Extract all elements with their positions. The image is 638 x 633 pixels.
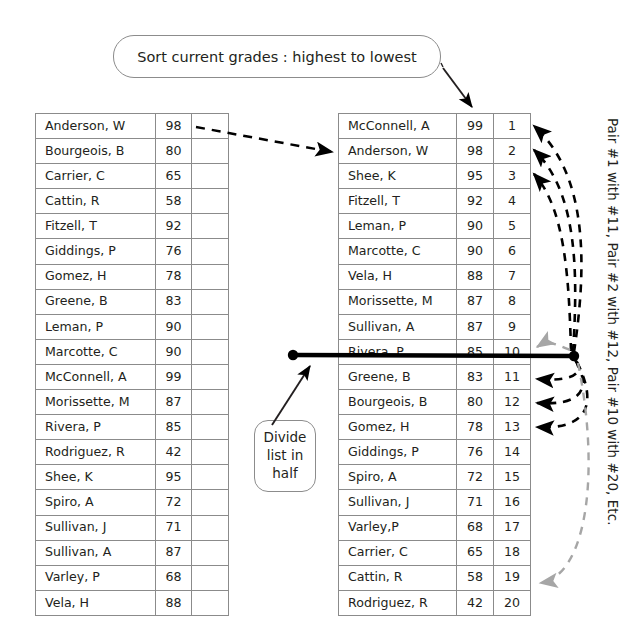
cell-grade: 87 <box>156 540 192 565</box>
table-row: Anderson, W98 <box>36 114 229 139</box>
cell-grade: 92 <box>156 214 192 239</box>
pair-arrow-20 <box>540 363 589 583</box>
cell-name: Fitzell, T <box>36 214 156 239</box>
table-row: Cattin, R58 <box>36 189 229 214</box>
table-row: Vela, H88 <box>36 590 229 615</box>
cell-grade: 72 <box>457 465 494 490</box>
divide-list-callout: Divide list in half <box>254 420 316 492</box>
cell-name: Sullivan, A <box>36 540 156 565</box>
cell-name: Rivera, P <box>36 415 156 440</box>
cell-name: Greene, B <box>36 289 156 314</box>
cell-rank: 12 <box>494 390 531 415</box>
cell-name: Cattin, R <box>36 189 156 214</box>
cell-blank <box>192 540 229 565</box>
pair-arrow-3 <box>534 174 571 351</box>
cell-name: Carrier, C <box>36 164 156 189</box>
table-row: Gomez, H78 <box>36 264 229 289</box>
table-row: Cattin, R5819 <box>339 565 531 590</box>
cell-rank: 16 <box>494 490 531 515</box>
table-row: Sullivan, J71 <box>36 515 229 540</box>
cell-rank: 2 <box>494 139 531 164</box>
table-row: Gomez, H7813 <box>339 415 531 440</box>
table-row: Spiro, A72 <box>36 490 229 515</box>
table-row: Rodriguez, R4220 <box>339 590 531 615</box>
cell-grade: 71 <box>156 515 192 540</box>
table-row: Giddings, P7614 <box>339 440 531 465</box>
cell-grade: 83 <box>156 289 192 314</box>
cell-name: Varley,P <box>339 515 457 540</box>
cell-rank: 13 <box>494 415 531 440</box>
table-row: Bourgeois, B8012 <box>339 390 531 415</box>
divide-list-line-1: Divide <box>264 429 307 445</box>
cell-blank <box>192 590 229 615</box>
pair-arrow-2 <box>534 150 575 352</box>
cell-name: Morissette, M <box>339 289 457 314</box>
table-row: Sullivan, J7116 <box>339 490 531 515</box>
cell-blank <box>192 465 229 490</box>
unsorted-grade-table: Anderson, W98Bourgeois, B80Carrier, C65C… <box>35 113 229 616</box>
table-row: Varley, P68 <box>36 565 229 590</box>
pair-arrow-1 <box>534 126 581 352</box>
cell-name: Anderson, W <box>36 114 156 139</box>
cell-blank <box>192 239 229 264</box>
cell-rank: 14 <box>494 440 531 465</box>
cell-grade: 58 <box>156 189 192 214</box>
cell-blank <box>192 314 229 339</box>
table-row: Bourgeois, B80 <box>36 139 229 164</box>
cell-grade: 65 <box>156 164 192 189</box>
pair-arrow-12 <box>537 361 583 403</box>
pair-arrow-13 <box>537 362 587 427</box>
table-row: Greene, B8311 <box>339 364 531 389</box>
cell-blank <box>192 490 229 515</box>
cell-grade: 72 <box>156 490 192 515</box>
cell-name: Rodriguez, R <box>339 590 457 615</box>
table-row: Rivera, P8510 <box>339 339 531 364</box>
cell-name: Marcotte, C <box>339 239 457 264</box>
sorted-table-body: McConnell, A991Anderson, W982Shee, K953F… <box>339 114 531 616</box>
cell-name: McConnell, A <box>339 114 457 139</box>
cell-grade: 78 <box>457 415 494 440</box>
cell-blank <box>192 264 229 289</box>
table-row: Fitzell, T924 <box>339 189 531 214</box>
cell-grade: 90 <box>457 239 494 264</box>
cell-name: Rivera, P <box>339 339 457 364</box>
cell-name: Carrier, C <box>339 540 457 565</box>
table-row: Varley,P6817 <box>339 515 531 540</box>
cell-name: Sullivan, J <box>339 490 457 515</box>
cell-grade: 76 <box>457 440 494 465</box>
cell-name: Bourgeois, B <box>36 139 156 164</box>
cell-name: McConnell, A <box>36 364 156 389</box>
cell-grade: 95 <box>156 465 192 490</box>
cell-name: Varley, P <box>36 565 156 590</box>
divide-callout-pointer-arrow <box>272 366 310 425</box>
cell-name: Vela, H <box>339 264 457 289</box>
table-row: Leman, P905 <box>339 214 531 239</box>
cell-name: Rodriguez, R <box>36 440 156 465</box>
cell-rank: 10 <box>494 339 531 364</box>
cell-rank: 20 <box>494 590 531 615</box>
cell-blank <box>192 114 229 139</box>
cell-rank: 1 <box>494 114 531 139</box>
sort-callout-pointer-arrow <box>441 63 472 107</box>
cell-name: Vela, H <box>36 590 156 615</box>
cell-name: Cattin, R <box>339 565 457 590</box>
cell-rank: 6 <box>494 239 531 264</box>
cell-name: Marcotte, C <box>36 339 156 364</box>
cell-name: Anderson, W <box>339 139 457 164</box>
cell-grade: 98 <box>457 139 494 164</box>
divide-list-line-3: half <box>272 465 297 481</box>
cell-name: Spiro, A <box>36 490 156 515</box>
cell-grade: 71 <box>457 490 494 515</box>
cell-rank: 4 <box>494 189 531 214</box>
cell-rank: 18 <box>494 540 531 565</box>
cell-rank: 8 <box>494 289 531 314</box>
cell-rank: 19 <box>494 565 531 590</box>
sorted-grade-table: McConnell, A991Anderson, W982Shee, K953F… <box>338 113 531 616</box>
table-row: Leman, P90 <box>36 314 229 339</box>
cell-grade: 42 <box>457 590 494 615</box>
sort-instruction-text: Sort current grades : highest to lowest <box>137 49 417 65</box>
cell-name: Bourgeois, B <box>339 390 457 415</box>
cell-name: Gomez, H <box>36 264 156 289</box>
table-row: Sullivan, A879 <box>339 314 531 339</box>
cell-blank <box>192 390 229 415</box>
